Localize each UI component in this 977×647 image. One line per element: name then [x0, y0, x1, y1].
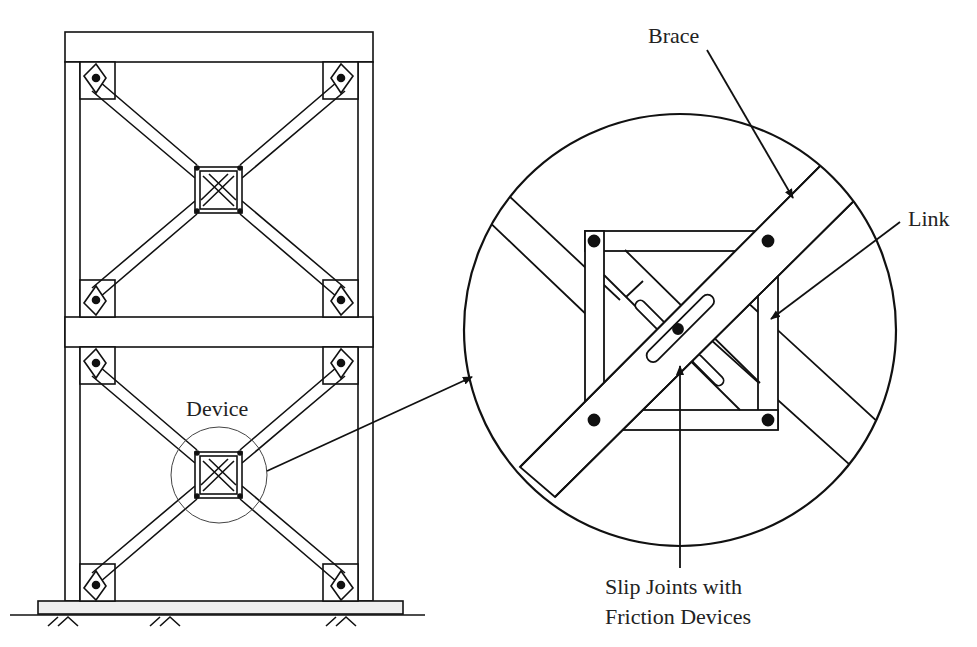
- upper-story-bracing: [80, 62, 358, 317]
- brace-label: Brace: [648, 23, 699, 48]
- brace-leader-arrow: [707, 50, 793, 198]
- two-story-frame: [10, 32, 425, 626]
- roof-beam: [65, 32, 373, 62]
- support-icon: [48, 617, 356, 626]
- device-detail-view: [440, 114, 930, 546]
- slip-joints-label-line2: Friction Devices: [605, 604, 751, 629]
- device-label: Device: [186, 396, 248, 421]
- floor-beam: [65, 317, 373, 347]
- link-label: Link: [908, 206, 950, 231]
- base-plate: [38, 601, 403, 614]
- lower-story-bracing: [80, 347, 358, 601]
- braced-frame-diagram: Device: [0, 0, 977, 647]
- slip-joints-label-line1: Slip Joints with: [605, 574, 742, 599]
